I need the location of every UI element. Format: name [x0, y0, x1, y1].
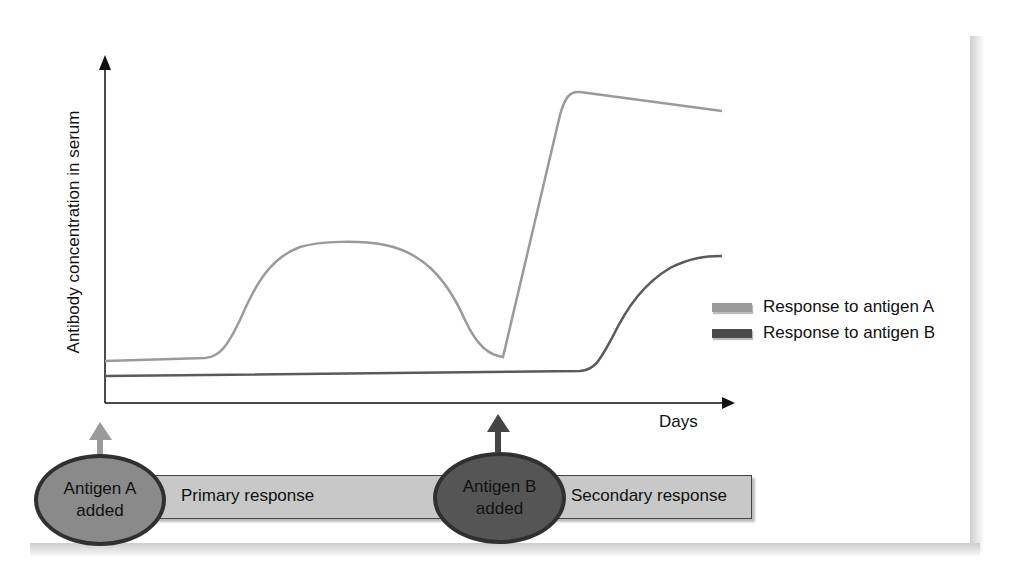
x-axis-arrow-icon: [722, 397, 735, 409]
curve-antigen-a: [105, 92, 722, 361]
legend-swatch-b: [712, 329, 752, 338]
legend: Response to antigen A Response to antige…: [712, 294, 935, 346]
figure: Antibody concentration in serum Days Res…: [0, 0, 1012, 571]
legend-item-antigen-a: Response to antigen A: [712, 294, 935, 320]
antigen-b-added-marker: Antigen B added: [433, 452, 566, 544]
antigen-a-added-marker: Antigen A added: [34, 454, 166, 546]
primary-response-label: Primary response: [181, 486, 314, 506]
x-axis-label: Days: [659, 412, 698, 432]
y-axis-arrow-icon: [99, 55, 111, 70]
legend-swatch-a: [712, 303, 752, 312]
arrow-b-shaft: [495, 430, 501, 452]
arrow-up-b-icon: [487, 414, 510, 432]
legend-item-antigen-b: Response to antigen B: [712, 320, 935, 346]
arrow-up-a-icon: [89, 422, 112, 440]
secondary-response-label: Secondary response: [571, 486, 727, 506]
